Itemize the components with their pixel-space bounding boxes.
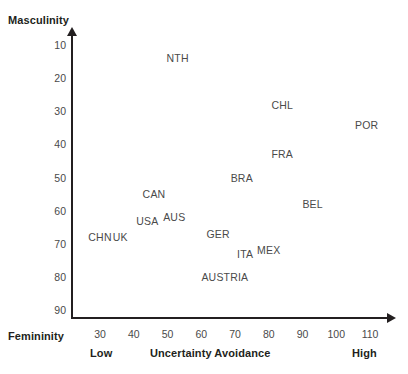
data-point-bra: BRA xyxy=(231,172,253,184)
y-axis-tick-70: 70 xyxy=(40,238,66,250)
data-point-fra: FRA xyxy=(271,148,293,160)
data-point-austria: AUSTRIA xyxy=(201,271,248,283)
data-point-chl: CHL xyxy=(271,99,293,111)
x-axis-line xyxy=(71,317,389,319)
x-axis-tick-30: 30 xyxy=(85,328,115,340)
y-axis-bottom-title: Femininity xyxy=(8,330,64,342)
data-point-ita: ITA xyxy=(237,248,253,260)
data-point-nth: NTH xyxy=(167,52,189,64)
y-axis-tick-40: 40 xyxy=(40,138,66,150)
data-point-usa: USA xyxy=(136,215,158,227)
x-axis-tick-80: 80 xyxy=(254,328,284,340)
y-axis-tick-90: 90 xyxy=(40,304,66,316)
data-point-bel: BEL xyxy=(302,198,322,210)
data-point-ger: GER xyxy=(206,228,229,240)
y-axis-arrow-icon xyxy=(67,27,77,36)
x-axis-tick-110: 110 xyxy=(355,328,385,340)
data-point-uk: UK xyxy=(113,231,128,243)
data-point-can: CAN xyxy=(143,188,166,200)
data-point-por: POR xyxy=(355,119,378,131)
y-axis-title: Masculinity xyxy=(8,14,69,26)
x-axis-tick-90: 90 xyxy=(288,328,318,340)
x-axis-low-label: Low xyxy=(90,347,112,359)
x-axis-tick-50: 50 xyxy=(153,328,183,340)
y-axis-tick-80: 80 xyxy=(40,271,66,283)
x-axis-tick-70: 70 xyxy=(220,328,250,340)
y-axis-tick-60: 60 xyxy=(40,205,66,217)
x-axis-tick-40: 40 xyxy=(119,328,149,340)
x-axis-tick-60: 60 xyxy=(186,328,216,340)
y-axis-line xyxy=(71,35,73,319)
y-axis-tick-30: 30 xyxy=(40,105,66,117)
x-axis-arrow-icon xyxy=(387,313,396,323)
y-axis-tick-20: 20 xyxy=(40,72,66,84)
y-axis-tick-50: 50 xyxy=(40,172,66,184)
data-point-chn: CHN xyxy=(88,231,111,243)
data-point-mex: MEX xyxy=(257,244,280,256)
x-axis-high-label: High xyxy=(352,347,377,359)
scatter-chart: Masculinity Uncertainty Avoidance Low Hi… xyxy=(0,0,408,374)
y-axis-tick-10: 10 xyxy=(40,39,66,51)
x-axis-tick-100: 100 xyxy=(321,328,351,340)
data-point-aus: AUS xyxy=(163,211,185,223)
x-axis-title: Uncertainty Avoidance xyxy=(150,347,270,359)
